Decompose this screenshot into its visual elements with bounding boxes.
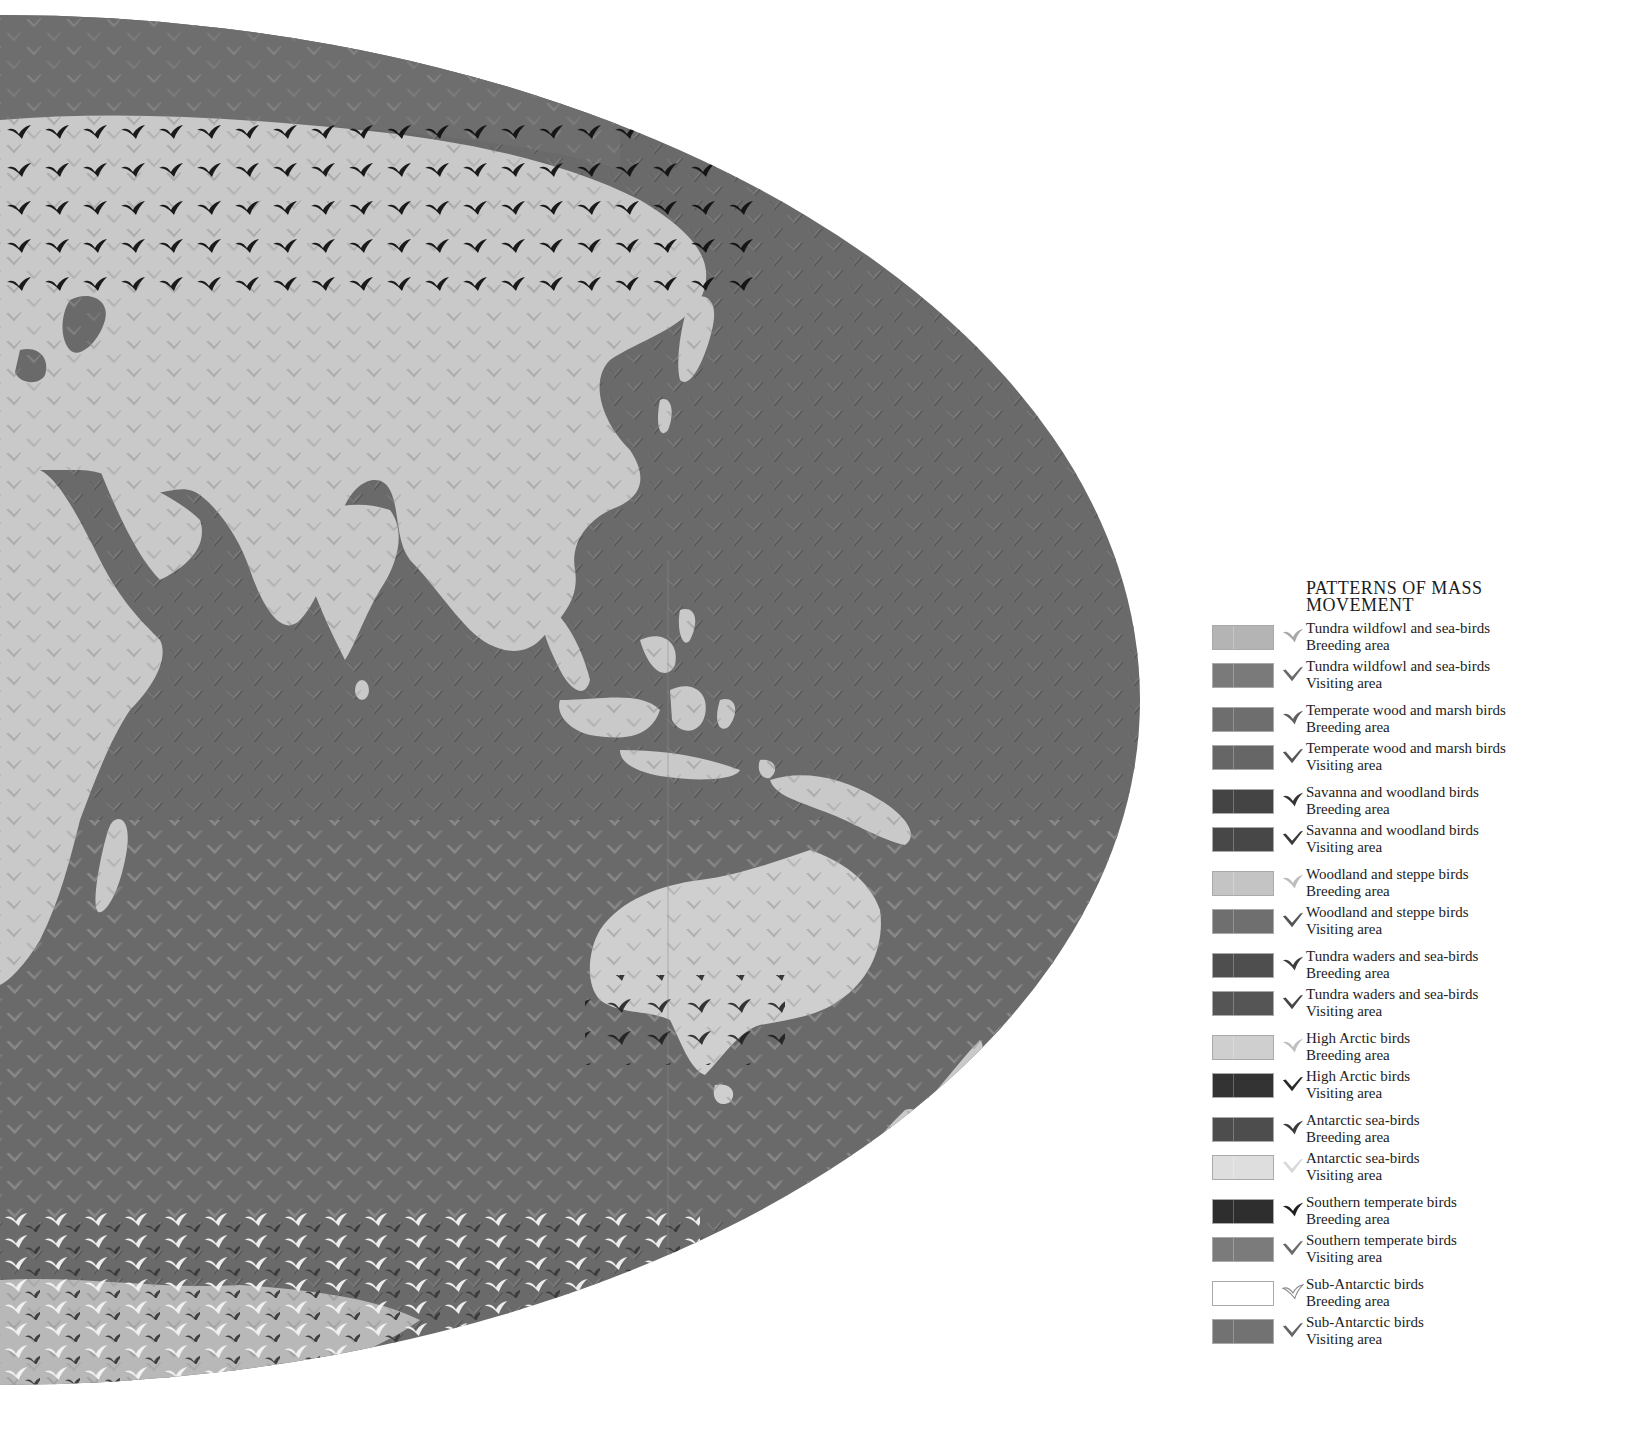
legend-area-label: Breeding area bbox=[1306, 637, 1490, 654]
flying-bird-icon bbox=[1282, 626, 1304, 646]
legend-label: High Arctic birdsVisiting area bbox=[1306, 1068, 1410, 1102]
legend-swatch bbox=[1212, 1199, 1274, 1224]
chevron-bird-icon bbox=[1282, 1156, 1304, 1176]
legend-label: Woodland and steppe birdsBreeding area bbox=[1306, 866, 1469, 900]
chevron-bird-icon bbox=[1282, 664, 1304, 684]
legend-swatch bbox=[1212, 909, 1274, 934]
legend-area-label: Breeding area bbox=[1306, 1129, 1420, 1146]
legend-swatch bbox=[1212, 1237, 1274, 1262]
flying-bird-icon bbox=[1282, 1282, 1304, 1302]
legend-item: Woodland and steppe birdsVisiting area bbox=[1210, 904, 1630, 942]
legend-title: PATTERNS OF MASS MOVEMENT bbox=[1306, 580, 1630, 614]
legend-item: Tundra wildfowl and sea-birdsVisiting ar… bbox=[1210, 658, 1630, 696]
legend-item: Savanna and woodland birdsVisiting area bbox=[1210, 822, 1630, 860]
legend-swatch bbox=[1212, 1073, 1274, 1098]
legend-group-label: High Arctic birds bbox=[1306, 1068, 1410, 1085]
legend-swatch bbox=[1212, 1319, 1274, 1344]
legend-group-label: Temperate wood and marsh birds bbox=[1306, 740, 1506, 757]
legend-label: Woodland and steppe birdsVisiting area bbox=[1306, 904, 1469, 938]
legend-swatch bbox=[1212, 1155, 1274, 1180]
legend-group-label: Tundra wildfowl and sea-birds bbox=[1306, 620, 1490, 637]
legend-label: Tundra waders and sea-birdsVisiting area bbox=[1306, 986, 1478, 1020]
chevron-bird-icon bbox=[1282, 828, 1304, 848]
legend-swatch bbox=[1212, 827, 1274, 852]
legend-label: Southern temperate birdsVisiting area bbox=[1306, 1232, 1457, 1266]
legend-label: Temperate wood and marsh birdsBreeding a… bbox=[1306, 702, 1506, 736]
flying-bird-icon bbox=[1282, 872, 1304, 892]
legend-group-label: Temperate wood and marsh birds bbox=[1306, 702, 1506, 719]
flying-bird-icon bbox=[1282, 708, 1304, 728]
legend-group-label: High Arctic birds bbox=[1306, 1030, 1410, 1047]
legend-item: Southern temperate birdsVisiting area bbox=[1210, 1232, 1630, 1270]
legend-item: Antarctic sea-birdsVisiting area bbox=[1210, 1150, 1630, 1188]
legend-group-label: Savanna and woodland birds bbox=[1306, 784, 1479, 801]
legend-title-line-2: MOVEMENT bbox=[1306, 597, 1630, 614]
legend-group-label: Woodland and steppe birds bbox=[1306, 904, 1469, 921]
legend-area-label: Visiting area bbox=[1306, 675, 1490, 692]
legend-area-label: Breeding area bbox=[1306, 719, 1506, 736]
legend-label: Savanna and woodland birdsBreeding area bbox=[1306, 784, 1479, 818]
legend-area-label: Breeding area bbox=[1306, 1047, 1410, 1064]
legend-swatch bbox=[1212, 707, 1274, 732]
globe bbox=[0, 0, 1200, 1441]
legend-area-label: Visiting area bbox=[1306, 1249, 1457, 1266]
legend-area-label: Visiting area bbox=[1306, 1331, 1424, 1348]
legend-group-label: Sub-Antarctic birds bbox=[1306, 1276, 1424, 1293]
legend-group-label: Savanna and woodland birds bbox=[1306, 822, 1479, 839]
legend-area-label: Visiting area bbox=[1306, 757, 1506, 774]
legend-label: Tundra wildfowl and sea-birdsBreeding ar… bbox=[1306, 620, 1490, 654]
legend-label: Tundra wildfowl and sea-birdsVisiting ar… bbox=[1306, 658, 1490, 692]
legend-swatch bbox=[1212, 1035, 1274, 1060]
legend-item: Tundra waders and sea-birdsBreeding area bbox=[1210, 948, 1630, 986]
legend-item: Temperate wood and marsh birdsVisiting a… bbox=[1210, 740, 1630, 778]
legend-swatch bbox=[1212, 789, 1274, 814]
chevron-bird-icon bbox=[1282, 746, 1304, 766]
flying-bird-icon bbox=[1282, 1118, 1304, 1138]
legend-item: Antarctic sea-birdsBreeding area bbox=[1210, 1112, 1630, 1150]
legend-item: High Arctic birdsBreeding area bbox=[1210, 1030, 1630, 1068]
legend-item: Savanna and woodland birdsBreeding area bbox=[1210, 784, 1630, 822]
legend-item: High Arctic birdsVisiting area bbox=[1210, 1068, 1630, 1106]
legend-group-label: Tundra wildfowl and sea-birds bbox=[1306, 658, 1490, 675]
legend-item: Sub-Antarctic birdsBreeding area bbox=[1210, 1276, 1630, 1314]
legend-group-label: Tundra waders and sea-birds bbox=[1306, 986, 1478, 1003]
legend-swatch bbox=[1212, 663, 1274, 688]
legend-area-label: Breeding area bbox=[1306, 883, 1469, 900]
legend-area-label: Breeding area bbox=[1306, 1211, 1457, 1228]
legend-items: Tundra wildfowl and sea-birdsBreeding ar… bbox=[1210, 620, 1630, 1352]
legend-group-label: Southern temperate birds bbox=[1306, 1194, 1457, 1211]
chevron-bird-icon bbox=[1282, 1074, 1304, 1094]
legend-label: Southern temperate birdsBreeding area bbox=[1306, 1194, 1457, 1228]
legend-swatch bbox=[1212, 953, 1274, 978]
legend-area-label: Breeding area bbox=[1306, 1293, 1424, 1310]
chevron-bird-icon bbox=[1282, 992, 1304, 1012]
legend-group-label: Tundra waders and sea-birds bbox=[1306, 948, 1478, 965]
legend-swatch bbox=[1212, 745, 1274, 770]
legend: PATTERNS OF MASS MOVEMENT Tundra wildfow… bbox=[1210, 580, 1630, 1352]
legend-area-label: Visiting area bbox=[1306, 1167, 1420, 1184]
legend-item: Tundra wildfowl and sea-birdsBreeding ar… bbox=[1210, 620, 1630, 658]
legend-swatch bbox=[1212, 871, 1274, 896]
legend-area-label: Visiting area bbox=[1306, 1085, 1410, 1102]
legend-area-label: Breeding area bbox=[1306, 801, 1479, 818]
legend-group-label: Woodland and steppe birds bbox=[1306, 866, 1469, 883]
chevron-bird-icon bbox=[1282, 910, 1304, 930]
legend-item: Woodland and steppe birdsBreeding area bbox=[1210, 866, 1630, 904]
flying-bird-icon bbox=[1282, 1036, 1304, 1056]
legend-item: Sub-Antarctic birdsVisiting area bbox=[1210, 1314, 1630, 1352]
legend-label: Sub-Antarctic birdsVisiting area bbox=[1306, 1314, 1424, 1348]
legend-group-label: Sub-Antarctic birds bbox=[1306, 1314, 1424, 1331]
legend-area-label: Visiting area bbox=[1306, 921, 1469, 938]
flying-bird-icon bbox=[1282, 1200, 1304, 1220]
legend-item: Temperate wood and marsh birdsBreeding a… bbox=[1210, 702, 1630, 740]
legend-group-label: Antarctic sea-birds bbox=[1306, 1112, 1420, 1129]
legend-label: Sub-Antarctic birdsBreeding area bbox=[1306, 1276, 1424, 1310]
legend-item: Tundra waders and sea-birdsVisiting area bbox=[1210, 986, 1630, 1024]
legend-label: Antarctic sea-birdsVisiting area bbox=[1306, 1150, 1420, 1184]
legend-label: Savanna and woodland birdsVisiting area bbox=[1306, 822, 1479, 856]
legend-swatch bbox=[1212, 991, 1274, 1016]
legend-swatch bbox=[1212, 1281, 1274, 1306]
legend-swatch bbox=[1212, 625, 1274, 650]
flying-bird-icon bbox=[1282, 790, 1304, 810]
legend-area-label: Visiting area bbox=[1306, 1003, 1478, 1020]
